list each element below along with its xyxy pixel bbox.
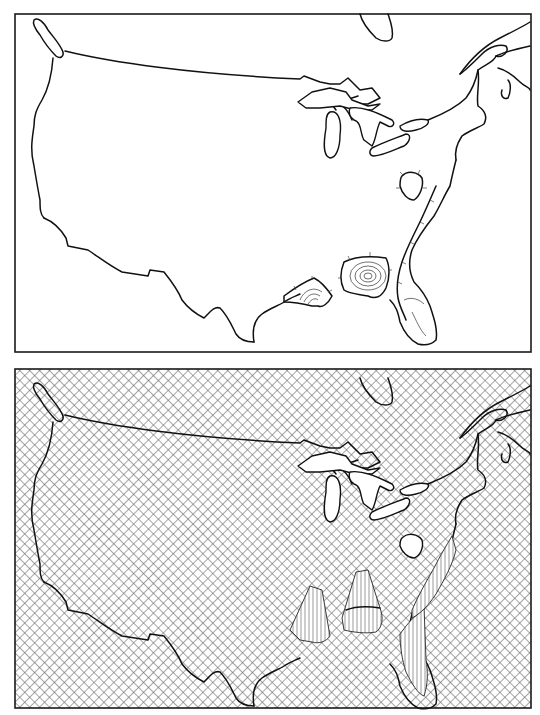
louisiana-peak-contours <box>284 278 332 307</box>
us-outline-top <box>32 14 530 345</box>
contour-map-svg <box>0 0 540 360</box>
alabama-georgia-peak-contours <box>341 257 389 298</box>
florida-contours <box>404 298 426 336</box>
contour-map-panel <box>0 0 540 360</box>
surface-plot-panel <box>0 360 540 715</box>
top-panel-frame <box>15 14 531 352</box>
crosshatch-surface <box>15 369 531 708</box>
tennessee-oval-contour <box>400 172 423 200</box>
coastal-plain-contour <box>397 186 436 320</box>
contour-ticks <box>294 170 434 292</box>
surface-plot-svg <box>0 360 540 715</box>
